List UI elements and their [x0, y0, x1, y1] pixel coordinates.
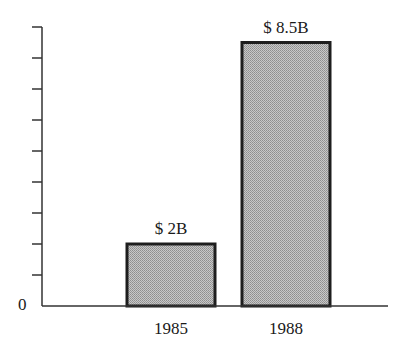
bar-chart: 0$ 2B1985$ 8.5B1988 — [0, 0, 405, 349]
bar-1988 — [242, 43, 330, 307]
x-category-label: 1985 — [154, 320, 188, 337]
bar-1985 — [127, 244, 215, 306]
bar-value-label: $ 8.5B — [263, 19, 308, 36]
bar-value-label: $ 2B — [155, 220, 188, 237]
y-axis — [32, 27, 42, 306]
x-category-label: 1988 — [269, 320, 303, 337]
chart-canvas — [0, 0, 405, 349]
y-tick-label-zero: 0 — [18, 296, 27, 313]
bars-group — [127, 43, 330, 307]
